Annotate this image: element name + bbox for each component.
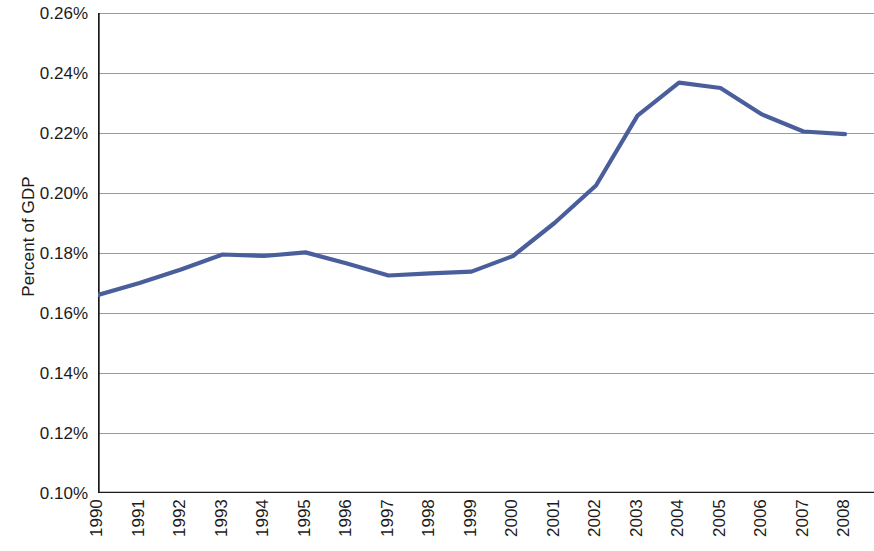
plot-area bbox=[98, 13, 874, 493]
x-axis-tick-label: 2007 bbox=[794, 477, 811, 537]
line-chart-svg bbox=[98, 13, 874, 493]
x-axis-tick-label: 1998 bbox=[420, 477, 437, 537]
x-axis-tick-label: 2008 bbox=[835, 477, 852, 537]
x-axis-tick-label: 1992 bbox=[171, 477, 188, 537]
x-axis-tick-label: 1996 bbox=[337, 477, 354, 537]
x-axis-tick-labels: 1990199119921993199419951996199719981999… bbox=[0, 497, 874, 551]
x-axis-tick-label: 2003 bbox=[628, 477, 645, 537]
x-axis-tick-label: 2005 bbox=[711, 477, 728, 537]
y-axis-tick-label: 0.14% bbox=[2, 365, 88, 382]
x-axis-tick-label: 2000 bbox=[503, 477, 520, 537]
chart-figure: Percent of GDP 0.26%0.24%0.22%0.20%0.18%… bbox=[0, 0, 874, 551]
y-axis-tick-label: 0.18% bbox=[2, 245, 88, 262]
y-axis-tick-label: 0.12% bbox=[2, 425, 88, 442]
x-axis-tick-label: 2006 bbox=[752, 477, 769, 537]
x-axis-tick-label: 2002 bbox=[586, 477, 603, 537]
y-axis-tick-label: 0.20% bbox=[2, 185, 88, 202]
x-axis-tick-label: 1997 bbox=[379, 477, 396, 537]
gridlines bbox=[98, 14, 874, 494]
x-axis-tick-label: 2001 bbox=[545, 477, 562, 537]
x-axis-tick-label: 1994 bbox=[254, 477, 271, 537]
x-axis-tick-label: 2004 bbox=[669, 477, 686, 537]
x-axis-tick-label: 1995 bbox=[296, 477, 313, 537]
x-axis-tick-label: 1999 bbox=[462, 477, 479, 537]
x-axis-tick-label: 1993 bbox=[213, 477, 230, 537]
y-axis-tick-labels: 0.26%0.24%0.22%0.20%0.18%0.16%0.14%0.12%… bbox=[0, 0, 88, 551]
y-axis-tick-label: 0.22% bbox=[2, 125, 88, 142]
x-axis-tick-label: 1991 bbox=[130, 477, 147, 537]
y-axis-tick-label: 0.26% bbox=[2, 5, 88, 22]
x-axis-tick-label: 1990 bbox=[88, 477, 105, 537]
y-axis-tick-label: 0.16% bbox=[2, 305, 88, 322]
data-series-line bbox=[98, 83, 845, 295]
y-axis-tick-label: 0.24% bbox=[2, 65, 88, 82]
